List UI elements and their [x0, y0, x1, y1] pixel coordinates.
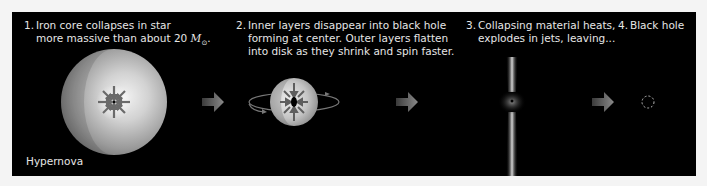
arrow-right-icon — [396, 92, 418, 112]
step-number: 4. — [618, 19, 630, 32]
step-number: 1. — [24, 19, 36, 32]
step-text: explodes in jets, leaving... — [466, 32, 615, 45]
arrow-right-icon — [202, 92, 224, 112]
step-text: into disk as they shrink and spin faster… — [236, 45, 454, 58]
solar-mass-symbol: M — [191, 32, 202, 44]
hypernova-label: Hypernova — [26, 155, 83, 167]
step-text: forming at center. Outer layers flatten — [236, 32, 454, 45]
jets-illustration — [498, 57, 526, 176]
diagram-panel: 1.Iron core collapses in star more massi… — [12, 12, 696, 176]
black-hole-icon — [642, 96, 654, 108]
step-1-caption: 1.Iron core collapses in star more massi… — [24, 19, 211, 50]
star-sphere-illustration — [61, 49, 167, 155]
step-4-caption: 4.Black hole — [618, 19, 684, 32]
arrow-right-icon — [592, 92, 614, 112]
step-text: Inner layers disappear into black hole — [248, 19, 446, 31]
step-number: 2. — [236, 19, 248, 32]
spinning-disk-illustration — [249, 78, 339, 126]
step-text: Iron core collapses in star — [36, 19, 171, 31]
step-3-caption: 3.Collapsing material heats, explodes in… — [466, 19, 615, 45]
step-number: 3. — [466, 19, 478, 32]
step-text: more massive than about 20 — [36, 32, 191, 44]
step-text: . — [207, 32, 210, 44]
step-2-caption: 2.Inner layers disappear into black hole… — [236, 19, 454, 58]
step-text: Collapsing material heats, — [478, 19, 615, 31]
step-text: Black hole — [630, 19, 684, 31]
